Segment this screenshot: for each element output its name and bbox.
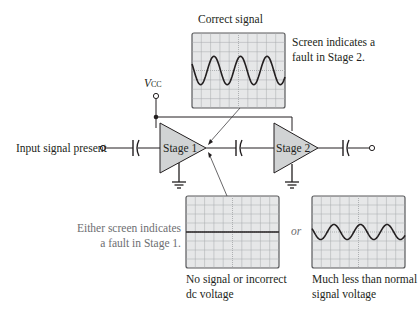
vcc-label-main: V [144, 77, 151, 89]
output-terminal [369, 145, 374, 150]
note-stage1-line1: Either screen indicates [77, 221, 181, 235]
ground-icon [172, 163, 186, 188]
note-stage1-line2: a fault in Stage 1. [100, 236, 181, 250]
caption-low-signal-line2: signal voltage [312, 287, 376, 301]
correct-signal-title: Correct signal [198, 12, 263, 26]
vcc-label: VCC [144, 76, 162, 92]
stage2-label: Stage 2 [276, 141, 310, 155]
input-signal-label: Input signal present [16, 141, 107, 155]
note-stage2-line1: Screen indicates a [292, 35, 375, 49]
or-label: or [291, 224, 301, 238]
stage1-label: Stage 1 [163, 141, 197, 155]
pointer-arrow-from-top-screen [210, 108, 240, 142]
ground-icon [285, 164, 299, 188]
arrowhead-icon [208, 152, 212, 158]
caption-no-signal-line1: No signal or incorrect [186, 272, 287, 286]
scope-screen-no-signal [186, 196, 279, 268]
caption-low-signal-line1: Much less than normal [312, 272, 417, 286]
vcc-terminal [153, 93, 158, 98]
scope-screen-correct [192, 33, 285, 108]
caption-no-signal-line2: dc voltage [186, 287, 234, 301]
pointer-arrow-from-bottom-screen [210, 156, 227, 196]
vcc-junction-dot [154, 115, 159, 120]
scope-screen-low-signal [312, 196, 405, 268]
vcc-label-sub: CC [151, 80, 162, 89]
note-stage2-line2: fault in Stage 2. [292, 50, 365, 64]
